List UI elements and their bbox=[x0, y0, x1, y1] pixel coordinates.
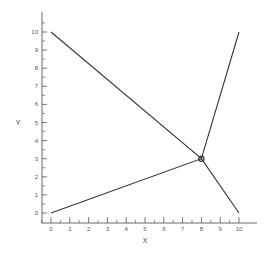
x-tick-label: 5 bbox=[143, 226, 147, 232]
x-tick-label: 2 bbox=[87, 226, 91, 232]
x-tick-label: 1 bbox=[68, 226, 72, 232]
y-axis-label: Y bbox=[16, 119, 21, 126]
chart: 012345678910012345678910 X Y bbox=[0, 0, 270, 256]
x-tick-label: 6 bbox=[162, 226, 166, 232]
intersection-dot bbox=[201, 158, 203, 160]
x-tick-label: 8 bbox=[200, 226, 204, 232]
y-tick-label: 2 bbox=[35, 174, 39, 180]
y-tick-label: 9 bbox=[35, 47, 39, 53]
y-tick-label: 7 bbox=[35, 83, 39, 89]
y-tick-label: 5 bbox=[35, 120, 39, 126]
y-tick-label: 6 bbox=[35, 101, 39, 107]
y-tick-label: 3 bbox=[35, 156, 39, 162]
line-2 bbox=[51, 32, 239, 213]
y-tick-label: 8 bbox=[35, 65, 39, 71]
series-lines bbox=[51, 32, 239, 213]
x-tick-label: 4 bbox=[125, 226, 129, 232]
y-tick-label: 0 bbox=[35, 210, 39, 216]
x-tick-label: 3 bbox=[106, 226, 110, 232]
x-tick-label: 9 bbox=[219, 226, 223, 232]
x-tick-label: 7 bbox=[181, 226, 185, 232]
y-tick-label: 1 bbox=[35, 192, 39, 198]
line-1 bbox=[51, 32, 239, 213]
y-tick-label: 10 bbox=[31, 29, 38, 35]
y-tick-label: 4 bbox=[35, 138, 39, 144]
x-tick-label: 0 bbox=[49, 226, 53, 232]
x-tick-label: 10 bbox=[236, 226, 243, 232]
x-axis-label: X bbox=[143, 237, 148, 244]
axes: 012345678910012345678910 bbox=[31, 12, 257, 232]
